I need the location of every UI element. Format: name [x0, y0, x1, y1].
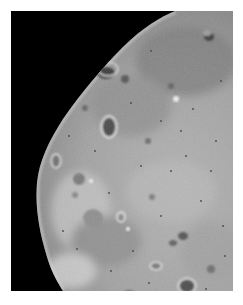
- moon-photo: [11, 11, 233, 291]
- moon-surface-illustration: [11, 11, 233, 291]
